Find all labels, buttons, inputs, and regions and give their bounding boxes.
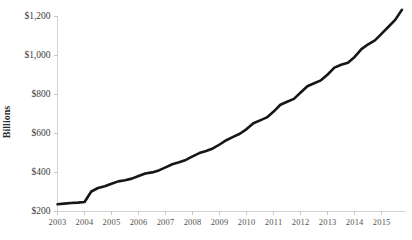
plot-area (58, 10, 402, 204)
y-axis-tick-label: $1,000 (24, 50, 50, 60)
x-axis-tick-label: 2010 (238, 217, 256, 227)
data-series-line (58, 10, 402, 204)
y-axis: $200$400$600$800$1,000$1,200 (24, 11, 57, 216)
x-axis-tick-label: 2009 (211, 217, 229, 227)
y-axis-ticks (54, 16, 58, 211)
y-axis-title: Billions (1, 106, 12, 138)
x-axis-tick-label: 2011 (265, 217, 283, 227)
x-axis-tick-label: 2014 (346, 217, 364, 227)
x-axis-tick-label: 2008 (184, 217, 202, 227)
x-axis-tick-label: 2015 (373, 217, 391, 227)
x-axis-tick-label: 2006 (130, 217, 148, 227)
x-axis-tick-label: 2005 (103, 217, 121, 227)
y-axis-tick-label: $1,200 (24, 11, 50, 21)
x-axis-tick-label: 2007 (157, 217, 175, 227)
x-axis-tick-labels: 2003200420052006200720082009201020112012… (49, 217, 391, 227)
chart-container: $200$400$600$800$1,000$1,200 20032004200… (0, 0, 412, 240)
x-axis-tick-label: 2004 (76, 217, 94, 227)
line-chart: $200$400$600$800$1,000$1,200 20032004200… (0, 0, 412, 240)
x-axis-tick-label: 2012 (292, 217, 310, 227)
x-axis: 2003200420052006200720082009201020112012… (49, 211, 406, 227)
y-axis-tick-label: $600 (32, 128, 51, 138)
x-axis-tick-label: 2013 (319, 217, 337, 227)
y-axis-tick-label: $400 (32, 167, 51, 177)
y-axis-tick-label: $800 (32, 89, 51, 99)
x-axis-tick-label: 2003 (49, 217, 67, 227)
y-axis-tick-label: $200 (32, 206, 51, 216)
y-axis-tick-labels: $200$400$600$800$1,000$1,200 (24, 11, 50, 216)
